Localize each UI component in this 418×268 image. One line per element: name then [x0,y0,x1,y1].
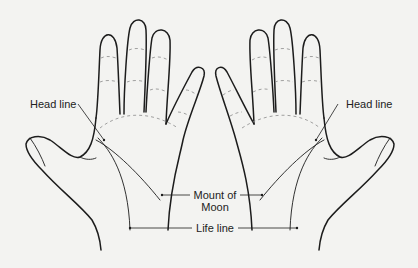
life-line-label: Life line [192,222,238,234]
right-hand-drawing [216,20,394,250]
palm-diagram: Head line Head line Mount of Moon Life l… [0,0,418,268]
mount-of-moon-label: Mount of Moon [190,189,240,213]
mount-of-moon-line2: Moon [190,201,240,213]
mount-of-moon-line1: Mount of [190,189,240,201]
head-line-label-right: Head line [346,98,392,110]
head-line-label-left: Head line [30,98,76,110]
left-hand-drawing [26,20,204,250]
